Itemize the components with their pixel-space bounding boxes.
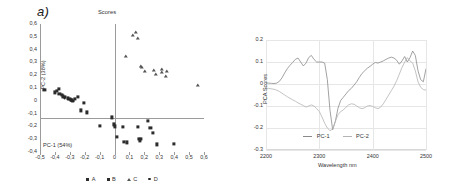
scatter-x-tick-mark	[55, 152, 56, 155]
scatter-point-C	[140, 66, 144, 69]
scatter-point-C	[153, 72, 157, 75]
scatter-point-C	[143, 70, 147, 73]
line-y-tick: 0	[250, 81, 263, 86]
scatter-x-tick-mark	[159, 152, 160, 155]
scatter-x-tick-mark	[204, 152, 205, 155]
scatter-point-C	[165, 70, 169, 73]
scatter-point-C	[124, 55, 128, 58]
line-y-tick: -0.1	[250, 103, 263, 108]
scatter-point-C	[134, 31, 138, 34]
legend-item-PC-2: PC-2	[343, 133, 369, 139]
legend-marker-square-icon	[86, 178, 89, 181]
legend-label: C	[133, 176, 137, 182]
scatter-x-tick: 0,1	[122, 155, 136, 160]
line-series-PC-1	[266, 51, 426, 130]
scatter-point-B	[121, 125, 124, 128]
scatter-point-D	[72, 100, 75, 103]
scatter-x-tick-mark	[129, 152, 130, 155]
line-gridline-v	[426, 40, 427, 150]
scatter-y-tick: -0,2	[24, 123, 37, 128]
scatter-x-tick: -0,5	[33, 155, 47, 160]
line-y-tick: 0.1	[250, 59, 263, 64]
scatter-point-B	[113, 125, 116, 128]
scatter-y-tick: -0,1	[24, 111, 37, 116]
scatter-y-zero-line	[115, 24, 116, 152]
scatter-point-B	[115, 136, 118, 139]
scatter-x-tick-mark	[189, 152, 190, 155]
legend-line-icon	[343, 136, 352, 137]
scatter-point-C	[131, 33, 135, 36]
line-gridline-h	[266, 150, 426, 151]
scatter-point-B	[149, 126, 152, 129]
scatter-y-axis-label: PC-2 (38%)	[40, 60, 46, 89]
legend-marker-triangle-icon	[127, 178, 131, 181]
scatter-title: Scores	[98, 9, 116, 15]
scatter-point-B	[79, 109, 82, 112]
panel-a-scatter: a) Scores 0,60,50,40,30,20,10-0,1-0,2-0,…	[0, 0, 226, 195]
legend-label: B	[112, 176, 116, 182]
line-y-axis-label: PCA Scores	[262, 74, 268, 104]
scatter-point-C	[196, 84, 200, 87]
scatter-point-A	[57, 87, 60, 90]
scatter-x-tick: -0,4	[48, 155, 62, 160]
scatter-x-tick: -0,1	[93, 155, 107, 160]
scatter-x-tick: 0,2	[137, 155, 151, 160]
scatter-y-tick: 0,1	[24, 85, 37, 90]
scatter-point-B	[173, 142, 176, 145]
scatter-legend: ABCD	[40, 176, 204, 182]
scatter-point-C	[135, 37, 139, 40]
scatter-x-tick-mark	[100, 152, 101, 155]
scatter-point-B	[126, 141, 129, 144]
line-x-tick: 2300	[310, 154, 328, 159]
scatter-point-B	[136, 125, 139, 128]
panel-a-label: a)	[37, 4, 49, 19]
line-x-tick: 2500	[417, 154, 435, 159]
legend-label: PC-1	[317, 133, 330, 139]
scatter-x-tick: -0,2	[78, 155, 92, 160]
legend-label: D	[154, 176, 158, 182]
scatter-y-tick: 0,6	[24, 21, 37, 26]
scatter-x-tick-mark	[85, 152, 86, 155]
figure-container: a) Scores 0,60,50,40,30,20,10-0,1-0,2-0,…	[0, 0, 452, 195]
scatter-y-tick: 0	[24, 98, 37, 103]
scatter-point-B	[111, 116, 114, 119]
scatter-x-tick: 0,4	[167, 155, 181, 160]
scatter-x-tick: 0,3	[152, 155, 166, 160]
line-x-axis-label: Wavelength nm	[318, 162, 357, 168]
scatter-point-C	[164, 75, 168, 78]
scatter-x-tick-mark	[174, 152, 175, 155]
scatter-x-tick-mark	[40, 152, 41, 155]
legend-item-PC-1: PC-1	[303, 133, 329, 139]
line-y-tick: -0.2	[250, 125, 263, 130]
scatter-x-tick-mark	[70, 152, 71, 155]
legend-item-B: B	[107, 176, 116, 182]
scatter-x-tick: 0	[108, 155, 122, 160]
line-y-tick: -0.3	[250, 147, 263, 152]
line-x-tick: 2400	[364, 154, 382, 159]
scatter-point-B	[98, 124, 101, 127]
scatter-point-C	[152, 68, 156, 71]
scatter-x-axis-label: PC-1 (54%)	[43, 142, 72, 148]
legend-label: PC-2	[356, 133, 369, 139]
legend-marker-dot-icon	[148, 178, 151, 181]
legend-line-icon	[303, 136, 312, 137]
scatter-point-B	[85, 111, 88, 114]
scatter-point-B	[151, 131, 154, 134]
scatter-point-D	[63, 97, 66, 100]
legend-marker-square-icon	[107, 178, 110, 181]
panel-b-line: b) 0.20.10-0.1-0.2-0.3 2200230024002500 …	[226, 0, 452, 195]
scatter-point-A	[82, 101, 85, 104]
line-x-tick: 2200	[257, 154, 275, 159]
scatter-plot-area: Scores 0,60,50,40,30,20,10-0,1-0,2-0,3-0…	[40, 24, 204, 152]
legend-label: A	[92, 176, 96, 182]
scatter-point-B	[155, 143, 158, 146]
scatter-y-tick: 0,3	[24, 59, 37, 64]
scatter-y-tick: 0,5	[24, 34, 37, 39]
scatter-x-tick: 0,6	[197, 155, 211, 160]
scatter-y-tick: -0,3	[24, 136, 37, 141]
scatter-x-tick-mark	[144, 152, 145, 155]
scatter-x-zero-line	[40, 118, 204, 119]
scatter-point-B	[139, 138, 142, 141]
legend-item-A: A	[86, 176, 95, 182]
legend-item-D: D	[148, 176, 157, 182]
